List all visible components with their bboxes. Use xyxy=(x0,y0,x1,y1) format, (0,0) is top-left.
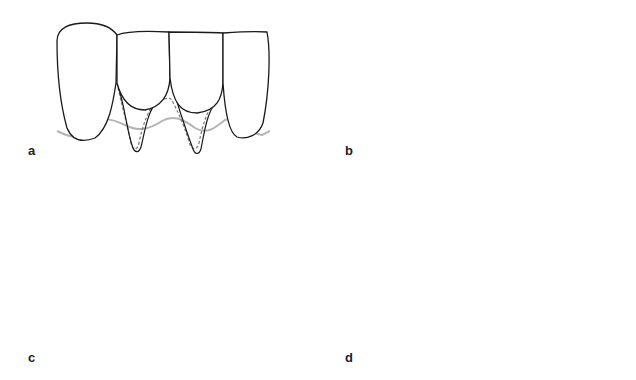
panel-label-b: b xyxy=(345,143,353,158)
periodontal-surgery-figure: a b c d xyxy=(0,0,636,380)
panel-label-a: a xyxy=(28,143,35,158)
panel-label-c: c xyxy=(28,350,35,365)
figure-drawing xyxy=(0,0,636,380)
panel-label-d: d xyxy=(345,350,353,365)
panel-a xyxy=(57,23,270,154)
